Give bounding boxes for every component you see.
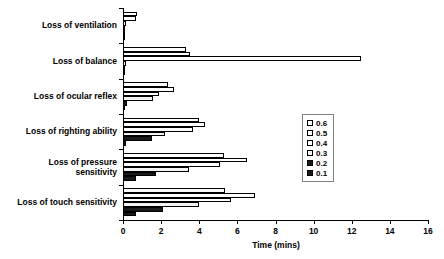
- bar-group: [123, 185, 428, 220]
- x-axis-tick-label: 6: [222, 226, 252, 236]
- bar: [123, 212, 136, 217]
- x-axis-tick-label: 8: [261, 226, 291, 236]
- x-axis-tick-label: 0: [108, 226, 138, 236]
- x-axis-tick-label: 4: [184, 226, 214, 236]
- x-axis-tick-label: 10: [299, 226, 329, 236]
- y-axis-tick: [119, 43, 123, 44]
- legend-label: 0.2: [316, 159, 327, 168]
- category-label: Loss of touch sensitivity: [0, 197, 125, 208]
- bar-group: [123, 79, 428, 114]
- legend-label: 0.1: [316, 169, 327, 178]
- category-label: Loss of ventilation: [0, 20, 125, 31]
- legend-items: 0.60.50.40.30.20.1: [307, 118, 327, 178]
- x-axis-tick: [276, 220, 277, 224]
- y-axis-tick: [119, 185, 123, 186]
- bar-row: [123, 35, 428, 40]
- legend-label: 0.4: [316, 139, 327, 148]
- x-axis-tick: [352, 220, 353, 224]
- legend: 0.60.50.40.30.20.1: [302, 114, 334, 182]
- y-axis-tick: [119, 114, 123, 115]
- legend-item: 0.2: [307, 158, 327, 168]
- bar-row: [123, 212, 428, 217]
- legend-item: 0.5: [307, 128, 327, 138]
- bar: [123, 106, 125, 111]
- legend-label: 0.6: [316, 119, 327, 128]
- category-label: Loss of righting ability: [0, 126, 125, 137]
- x-axis-tick: [199, 220, 200, 224]
- bar: [123, 176, 136, 181]
- legend-item: 0.6: [307, 118, 327, 128]
- legend-swatch-icon: [307, 140, 313, 146]
- x-axis-title: Time (mins): [123, 240, 429, 250]
- bar-group: [123, 149, 428, 184]
- legend-item: 0.3: [307, 148, 327, 158]
- category-label: Loss of balance: [0, 56, 125, 67]
- bar-row: [123, 141, 428, 146]
- y-axis-tick: [119, 8, 123, 9]
- bar-row: [123, 176, 428, 181]
- legend-swatch-icon: [307, 120, 313, 126]
- legend-item: 0.1: [307, 168, 327, 178]
- x-axis-tick: [314, 220, 315, 224]
- y-axis-tick: [119, 79, 123, 80]
- bar: [123, 141, 126, 146]
- legend-label: 0.5: [316, 129, 327, 138]
- legend-swatch-icon: [307, 160, 313, 166]
- bar-group: [123, 114, 428, 149]
- category-label: Loss of ocular reflex: [0, 91, 125, 102]
- x-axis-tick-label: 2: [146, 226, 176, 236]
- bar-row: [123, 70, 428, 75]
- category-label: Loss of pressuresensitivity: [0, 157, 125, 178]
- legend-swatch-icon: [307, 130, 313, 136]
- x-axis-tick: [123, 220, 124, 224]
- bar-group: [123, 43, 428, 78]
- x-axis-tick-label: 16: [413, 226, 443, 236]
- x-axis-tick-label: 12: [337, 226, 367, 236]
- legend-swatch-icon: [307, 170, 313, 176]
- y-axis-tick: [119, 149, 123, 150]
- bar: [123, 35, 125, 40]
- bar: [123, 70, 125, 75]
- legend-item: 0.4: [307, 138, 327, 148]
- x-axis-tick: [390, 220, 391, 224]
- bar-group: [123, 8, 428, 43]
- x-axis-tick: [237, 220, 238, 224]
- legend-swatch-icon: [307, 150, 313, 156]
- x-axis-tick-label: 14: [375, 226, 405, 236]
- bar-row: [123, 106, 428, 111]
- legend-label: 0.3: [316, 149, 327, 158]
- x-axis-tick: [161, 220, 162, 224]
- x-axis-tick: [428, 220, 429, 224]
- bar-chart: Loss of ventilationLoss of balanceLoss o…: [0, 0, 444, 259]
